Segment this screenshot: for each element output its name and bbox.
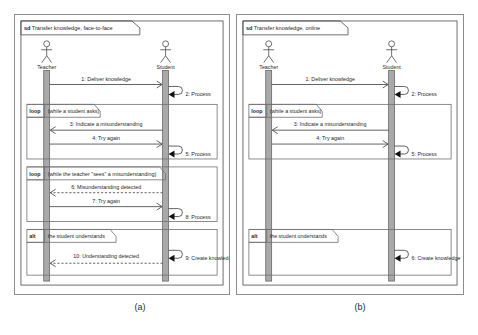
fragment-guard-alt-a: the student understands [48,233,106,239]
message-label-10-a: 10: Understanding detected [73,253,139,259]
frame-header-a: sd Transfer knowledge, face-to-face [21,21,140,35]
fragment-loop-1-b: loop (while a student asks) 3: Indicate … [249,104,451,159]
fragment-operator-alt-b: alt [251,233,257,239]
message-1-a: 1: Deliver knowledge [50,76,162,88]
actor-label-student-b: Student [382,64,401,70]
fragment-alt-b: alt the student understands 6: Create kn… [249,229,461,275]
fragment-guard-loop-2-a: (while the teacher "sees" a misunderstan… [48,171,157,177]
activation-teacher-b [266,71,272,281]
fragment-guard-loop-1-a: (while a student asks) [48,108,100,114]
fragment-alt-a: alt the student understands 9: Create kn… [27,229,229,275]
message-label-3-b: 3: Indicate a misunderstanding [294,121,367,127]
diagram-panel-b: sd Transfer knowledge, online Teacher [236,14,464,295]
message-label-2-a: 2: Process [185,91,211,97]
lifeline-student-b: Student [382,41,401,281]
message-2-b: 2: Process [395,86,437,97]
sequence-diagram-a: sd Transfer knowledge, face-to-face Teac… [15,15,229,294]
message-2-a: 2: Process [169,86,211,97]
frame-keyword-b: sd [246,25,253,31]
actor-label-teacher-a: Teacher [37,64,56,70]
message-label-1-b: 1: Deliver knowledge [305,76,355,82]
fragment-guard-alt-b: the student understands [270,233,328,239]
message-label-5-a: 5: Process [185,151,211,157]
fragment-operator-alt-a: alt [29,233,35,239]
fragment-operator-loop-1-a: loop [29,108,41,114]
lifeline-student-a: Student [156,41,175,281]
message-1-b: 1: Deliver knowledge [272,76,388,88]
message-label-6-b: 6: Create knowledge [411,255,460,261]
lifeline-teacher-b: Teacher [259,41,278,281]
frame-keyword-a: sd [24,25,31,31]
actor-label-student-a: Student [156,64,175,70]
message-label-7-a: 7: Try again [92,198,120,204]
figure-caption-a: (a) [120,302,160,312]
message-label-4-a: 4: Try again [92,135,120,141]
lifeline-teacher-a: Teacher [37,41,56,281]
message-label-8-a: 8: Process [185,214,211,220]
message-label-1-a: 1: Deliver knowledge [81,76,131,82]
fragment-guard-loop-1-b: (while a student asks) [270,108,322,114]
message-label-6-a: 6: Misunderstanding detected [71,184,141,190]
message-label-2-b: 2: Process [411,91,437,97]
sequence-diagram-b: sd Transfer knowledge, online Teacher [237,15,463,294]
fragment-operator-loop-1-b: loop [251,108,263,114]
activation-student-b [389,71,395,281]
fragment-loop-2-a: loop (while the teacher "sees" a misunde… [27,167,217,222]
frame-header-b: sd Transfer knowledge, online [243,21,348,35]
message-label-9-a: 9: Create knowledge [185,255,229,261]
frame-title-a: Transfer knowledge, face-to-face [32,25,113,31]
diagram-panel-a: sd Transfer knowledge, face-to-face Teac… [14,14,230,295]
actor-label-teacher-b: Teacher [259,64,278,70]
frame-title-b: Transfer knowledge, online [254,25,320,31]
message-label-5-b: 5: Process [411,151,437,157]
message-label-3-a: 3: Indicate a misunderstanding [70,121,143,127]
figure-caption-b: (b) [340,302,380,312]
message-label-4-b: 4: Try again [316,135,344,141]
fragment-operator-loop-2-a: loop [29,171,41,177]
fragment-loop-1-a: loop (while a student asks) 3: Indicate … [27,104,217,159]
figure-sequence-diagrams: sd Transfer knowledge, face-to-face Teac… [0,0,478,335]
